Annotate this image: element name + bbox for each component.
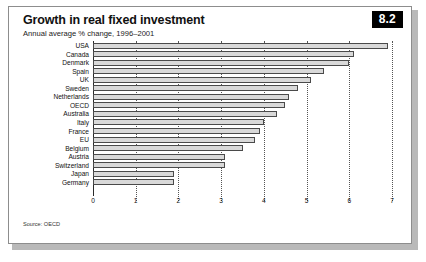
bar xyxy=(93,51,354,57)
x-tick-label: 6 xyxy=(347,197,351,204)
category-label: Switzerland xyxy=(55,162,89,170)
category-label: Netherlands xyxy=(53,93,89,101)
x-tick-label: 7 xyxy=(390,197,394,204)
chart-panel: Growth in real fixed investment Annual a… xyxy=(8,6,412,244)
category-label: Japan xyxy=(71,170,89,178)
x-tick-label: 3 xyxy=(219,197,223,204)
bar xyxy=(93,94,289,100)
category-label: UK xyxy=(80,76,89,84)
bar xyxy=(93,111,277,117)
x-tick-label: 5 xyxy=(305,197,309,204)
bar xyxy=(93,60,349,66)
x-tick-label: 4 xyxy=(262,197,266,204)
gridline xyxy=(349,41,350,201)
bar xyxy=(93,102,285,108)
bar xyxy=(93,154,225,160)
x-tick-label: 2 xyxy=(177,197,181,204)
chart-header: Growth in real fixed investment Annual a… xyxy=(9,7,411,43)
chart-subtitle: Annual average % change, 1996–2001 xyxy=(23,29,154,38)
source-note: Source: OECD xyxy=(23,221,60,227)
figure-number-badge: 8.2 xyxy=(372,11,403,28)
chart-card-shadow: Growth in real fixed investment Annual a… xyxy=(8,6,414,246)
bar xyxy=(93,145,243,151)
x-tick-label: 1 xyxy=(134,197,138,204)
x-axis-tick-labels: 01234567 xyxy=(93,197,399,211)
category-label: Austria xyxy=(68,153,89,161)
bar xyxy=(93,77,311,83)
category-label: Belgium xyxy=(65,145,89,153)
bar xyxy=(93,43,388,49)
chart-plot-area: USACanadaDenmarkSpainUKSwedenNetherlands… xyxy=(9,41,411,216)
category-label: Sweden xyxy=(65,85,89,93)
bar xyxy=(93,68,324,74)
category-label: Italy xyxy=(77,119,89,127)
category-label: EU xyxy=(80,136,89,144)
category-label: Denmark xyxy=(62,59,89,67)
category-label: France xyxy=(68,128,89,136)
bar xyxy=(93,119,264,125)
bar-series xyxy=(93,41,399,193)
x-tick-label: 0 xyxy=(91,197,95,204)
bar xyxy=(93,85,298,91)
category-label: OECD xyxy=(70,102,89,110)
category-axis-labels: USACanadaDenmarkSpainUKSwedenNetherlands… xyxy=(9,41,93,193)
category-label: Canada xyxy=(66,51,89,59)
category-label: Australia xyxy=(63,110,89,118)
page-title: Growth in real fixed investment xyxy=(23,13,205,27)
bar xyxy=(93,137,255,143)
category-label: Germany xyxy=(62,179,89,187)
gridline xyxy=(392,41,393,201)
bar xyxy=(93,171,174,177)
bar xyxy=(93,162,225,168)
bar xyxy=(93,179,174,185)
category-label: USA xyxy=(75,42,89,50)
bar xyxy=(93,128,260,134)
category-label: Spain xyxy=(72,68,89,76)
